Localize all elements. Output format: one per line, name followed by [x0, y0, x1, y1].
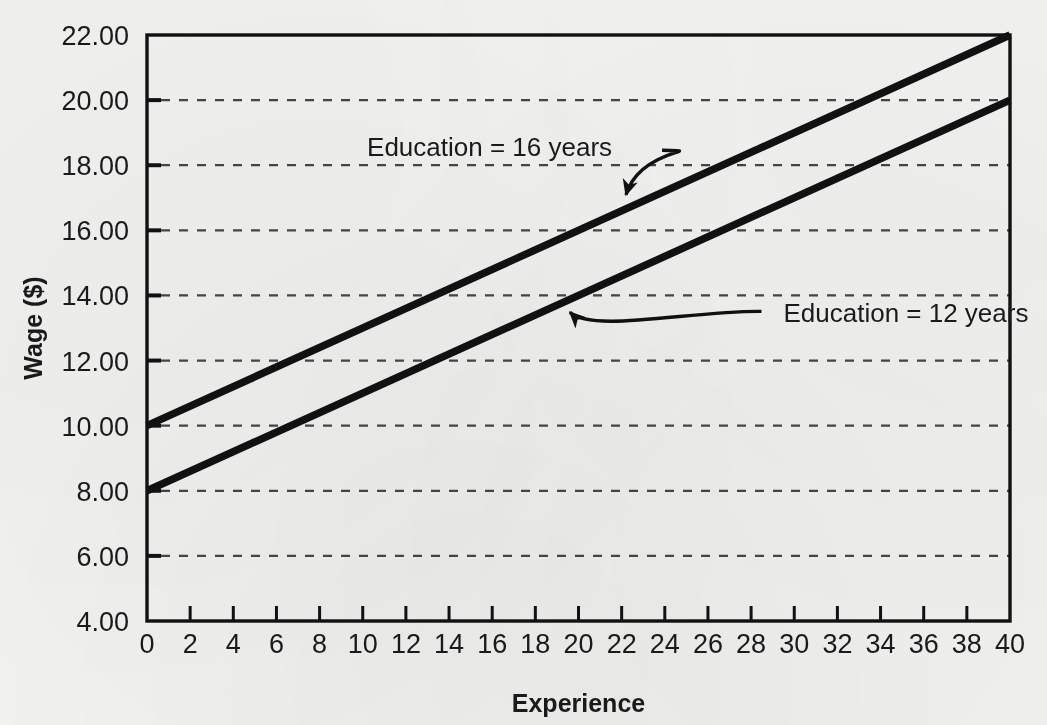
annotation-arrow-education-12 — [570, 311, 762, 321]
y-tick-label-22.00: 22.00 — [61, 21, 129, 51]
x-tick-label-14: 14 — [434, 629, 464, 659]
x-axis-title: Experience — [512, 689, 646, 717]
x-tick-label-38: 38 — [952, 629, 982, 659]
y-tick-label-16.00: 16.00 — [61, 216, 129, 246]
x-tick-label-32: 32 — [822, 629, 852, 659]
y-tick-label-6.00: 6.00 — [76, 542, 129, 572]
x-tick-label-40: 40 — [995, 629, 1025, 659]
y-tick-label-12.00: 12.00 — [61, 347, 129, 377]
y-tick-label-14.00: 14.00 — [61, 281, 129, 311]
x-tick-label-20: 20 — [563, 629, 593, 659]
x-tick-label-30: 30 — [779, 629, 809, 659]
x-tick-label-24: 24 — [650, 629, 680, 659]
x-tick-label-0: 0 — [139, 629, 154, 659]
x-tick-label-28: 28 — [736, 629, 766, 659]
chart-page: 4.006.008.0010.0012.0014.0016.0018.0020.… — [0, 0, 1047, 725]
x-tick-label-2: 2 — [183, 629, 198, 659]
x-tick-label-10: 10 — [348, 629, 378, 659]
x-tick-label-16: 16 — [477, 629, 507, 659]
y-tick-label-20.00: 20.00 — [61, 86, 129, 116]
x-tick-label-36: 36 — [909, 629, 939, 659]
x-tick-label-22: 22 — [607, 629, 637, 659]
y-tick-label-8.00: 8.00 — [76, 477, 129, 507]
x-tick-label-4: 4 — [226, 629, 241, 659]
wage-experience-line-chart: 4.006.008.0010.0012.0014.0016.0018.0020.… — [0, 0, 1047, 725]
x-tick-label-8: 8 — [312, 629, 327, 659]
x-tick-label-26: 26 — [693, 629, 723, 659]
y-axis-title: Wage ($) — [19, 276, 47, 379]
x-tick-label-12: 12 — [391, 629, 421, 659]
x-tick-label-34: 34 — [866, 629, 896, 659]
annotation-label-education-16: Education = 16 years — [367, 132, 612, 162]
y-tick-label-4.00: 4.00 — [76, 607, 129, 637]
annotation-label-education-12: Education = 12 years — [783, 298, 1028, 328]
y-tick-label-18.00: 18.00 — [61, 151, 129, 181]
y-tick-label-10.00: 10.00 — [61, 412, 129, 442]
x-tick-label-6: 6 — [269, 629, 284, 659]
x-tick-label-18: 18 — [520, 629, 550, 659]
